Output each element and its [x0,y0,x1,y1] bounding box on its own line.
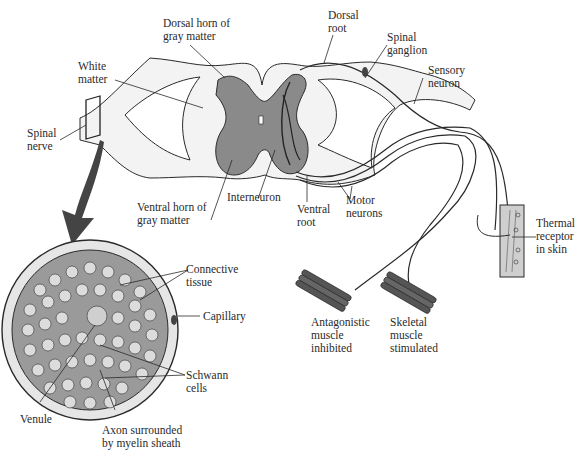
label-interneuron: Interneuron [227,191,281,204]
label-white-matter: White matter [78,60,107,86]
curved-arrow [62,140,104,245]
label-motor-neurons: Motor neurons [346,194,382,220]
antagonistic-muscle-bundle [295,269,352,313]
label-spinal-nerve: Spinal nerve [27,127,56,153]
label-dorsal-root: Dorsal root [328,9,359,35]
label-spinal-ganglion: Spinal ganglion [387,31,427,57]
label-capillary: Capillary [203,310,246,323]
label-ventral-horn: Ventral horn of gray matter [137,201,207,227]
label-thermal-receptor: Thermal receptor in skin [536,217,575,256]
label-axon: Axon surrounded by myelin sheath [102,424,182,450]
label-dorsal-horn: Dorsal horn of gray matter [163,17,230,43]
label-skeletal-muscle: Skeletal muscle stimulated [390,316,438,355]
skin-block [500,205,524,277]
label-ventral-root: Ventral root [297,203,330,229]
label-connective-tissue: Connective tissue [186,263,238,289]
label-venule: Venule [20,413,52,426]
label-antagonistic-muscle: Antagonistic muscle inhibited [311,316,370,355]
label-schwann-cells: Schwann cells [186,369,228,395]
nerve-cross-section [2,240,178,420]
label-sensory-neuron: Sensory neuron [428,64,465,90]
central-canal [259,116,263,124]
